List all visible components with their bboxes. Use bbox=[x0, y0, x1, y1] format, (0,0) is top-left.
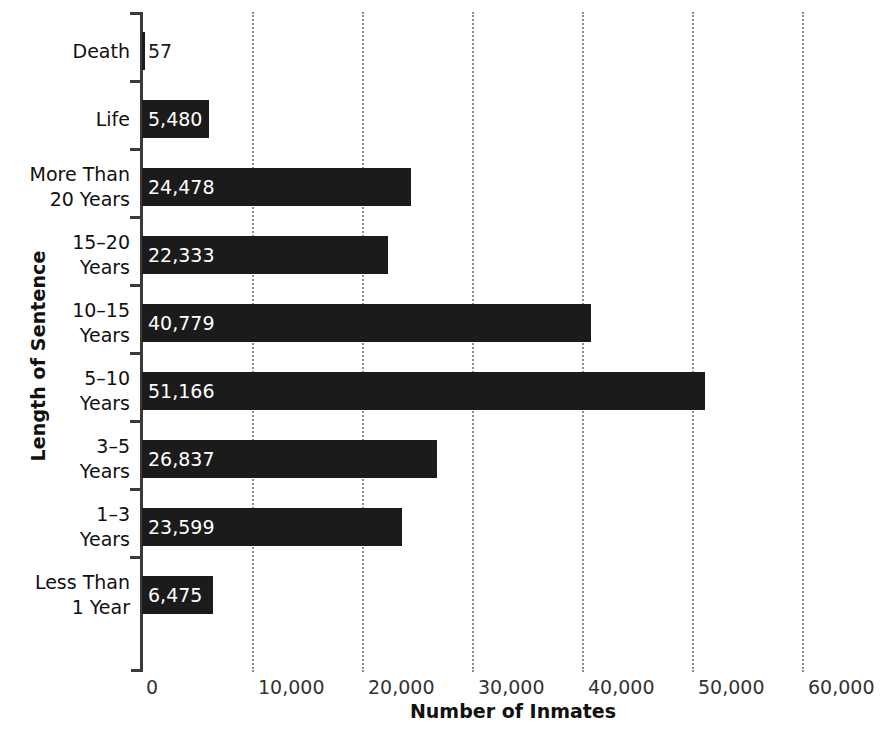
y-axis-tick bbox=[130, 12, 142, 15]
bar-value-label: 5,480 bbox=[148, 100, 202, 138]
bar[interactable] bbox=[142, 372, 705, 410]
bar-row[interactable]: 40,779 bbox=[142, 304, 884, 342]
bar-value-label: 6,475 bbox=[148, 576, 202, 614]
category-label: More Than20 Years bbox=[2, 162, 130, 212]
category-label: 3–5Years bbox=[2, 434, 130, 484]
category-label-line: 3–5 bbox=[2, 434, 130, 459]
category-label-line: 1 Year bbox=[2, 595, 130, 620]
x-tick-label: 20,000 bbox=[368, 676, 434, 698]
bar-row[interactable]: 24,478 bbox=[142, 168, 884, 206]
bar-value-label: 40,779 bbox=[148, 304, 214, 342]
bar-value-label: 26,837 bbox=[148, 440, 214, 478]
bar-value-label: 23,599 bbox=[148, 508, 214, 546]
y-axis-tick bbox=[130, 420, 142, 423]
bar-row[interactable]: 6,475 bbox=[142, 576, 884, 614]
category-label-line: Years bbox=[2, 255, 130, 280]
x-tick-label: 50,000 bbox=[698, 676, 764, 698]
bar-row[interactable]: 51,166 bbox=[142, 372, 884, 410]
category-label-line: Years bbox=[2, 527, 130, 552]
y-axis-tick bbox=[130, 148, 142, 151]
category-label: 5–10Years bbox=[2, 366, 130, 416]
category-label-line: 20 Years bbox=[2, 187, 130, 212]
category-label: 15–20Years bbox=[2, 230, 130, 280]
y-axis-tick bbox=[130, 216, 142, 219]
y-axis-tick bbox=[130, 284, 142, 287]
bar-row[interactable]: 26,837 bbox=[142, 440, 884, 478]
category-label-line: Death bbox=[2, 39, 130, 64]
category-label-line: 10–15 bbox=[2, 298, 130, 323]
category-label-line: 5–10 bbox=[2, 366, 130, 391]
y-axis-tick bbox=[130, 556, 142, 559]
bar[interactable] bbox=[142, 32, 145, 70]
category-label-line: Years bbox=[2, 459, 130, 484]
category-label: Death bbox=[2, 39, 130, 64]
category-label: Less Than1 Year bbox=[2, 570, 130, 620]
bar-row[interactable]: 22,333 bbox=[142, 236, 884, 274]
y-axis-tick bbox=[130, 80, 142, 83]
x-tick-label: 10,000 bbox=[258, 676, 324, 698]
bar-row[interactable]: 57 bbox=[142, 32, 884, 70]
category-label-line: More Than bbox=[2, 162, 130, 187]
bar-value-label: 24,478 bbox=[148, 168, 214, 206]
bar-value-label: 57 bbox=[148, 32, 172, 70]
category-label: 1–3Years bbox=[2, 502, 130, 552]
category-label-line: 1–3 bbox=[2, 502, 130, 527]
bar-value-label: 51,166 bbox=[148, 372, 214, 410]
category-label-line: Less Than bbox=[2, 570, 130, 595]
bar-row[interactable]: 5,480 bbox=[142, 100, 884, 138]
x-tick-label: 30,000 bbox=[478, 676, 544, 698]
y-axis-tick bbox=[130, 352, 142, 355]
y-axis-tick bbox=[130, 488, 142, 491]
category-label-line: 15–20 bbox=[2, 230, 130, 255]
bar-chart: Length of Sentence Number of Inmates 010… bbox=[0, 0, 884, 733]
bar-row[interactable]: 23,599 bbox=[142, 508, 884, 546]
category-label-line: Years bbox=[2, 391, 130, 416]
bar-value-label: 22,333 bbox=[148, 236, 214, 274]
x-tick-label: 0 bbox=[146, 676, 158, 698]
category-label: 10–15Years bbox=[2, 298, 130, 348]
category-label: Life bbox=[2, 107, 130, 132]
x-axis-title: Number of Inmates bbox=[142, 700, 884, 722]
x-tick-label: 60,000 bbox=[808, 676, 874, 698]
category-label-line: Life bbox=[2, 107, 130, 132]
y-axis-bottom-cap bbox=[131, 669, 143, 672]
category-label-line: Years bbox=[2, 323, 130, 348]
x-tick-label: 40,000 bbox=[588, 676, 654, 698]
